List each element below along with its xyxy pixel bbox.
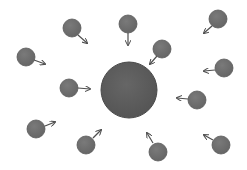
particle-circle — [119, 15, 137, 33]
particle — [204, 135, 230, 154]
particle — [60, 79, 90, 97]
particle-circle — [77, 136, 95, 154]
diagram-canvas — [0, 0, 247, 170]
force-arrow-icon — [78, 88, 90, 89]
force-arrow-icon — [204, 26, 212, 33]
force-arrow-icon — [45, 122, 55, 126]
particle — [147, 133, 167, 161]
force-arrow-icon — [93, 130, 101, 138]
particle — [150, 40, 171, 64]
force-arrow-icon — [147, 133, 153, 143]
particle-circle — [153, 40, 171, 58]
force-arrow-icon — [78, 35, 87, 43]
particle — [27, 120, 55, 138]
particle — [17, 48, 45, 66]
particle-circle — [149, 143, 167, 161]
particle-circle — [212, 136, 230, 154]
central-mass-group — [101, 62, 157, 118]
particle-circle — [209, 10, 227, 28]
particle-circle — [188, 91, 206, 109]
central-mass-circle — [101, 62, 157, 118]
force-arrow-icon — [150, 56, 157, 64]
force-arrow-icon — [177, 98, 188, 99]
force-arrow-icon — [34, 60, 45, 64]
particle — [204, 10, 227, 33]
force-arrow-icon — [204, 70, 215, 71]
particle — [204, 59, 233, 77]
particle-circle — [27, 120, 45, 138]
force-arrow-icon — [204, 135, 213, 140]
particle — [63, 19, 87, 43]
particle-attraction-diagram — [0, 0, 247, 170]
particle-circle — [60, 79, 78, 97]
particle — [119, 15, 137, 45]
particle — [77, 130, 101, 154]
particle-circle — [17, 48, 35, 66]
particle-circle — [215, 59, 233, 77]
particle-circle — [63, 19, 81, 37]
particle — [177, 91, 206, 109]
